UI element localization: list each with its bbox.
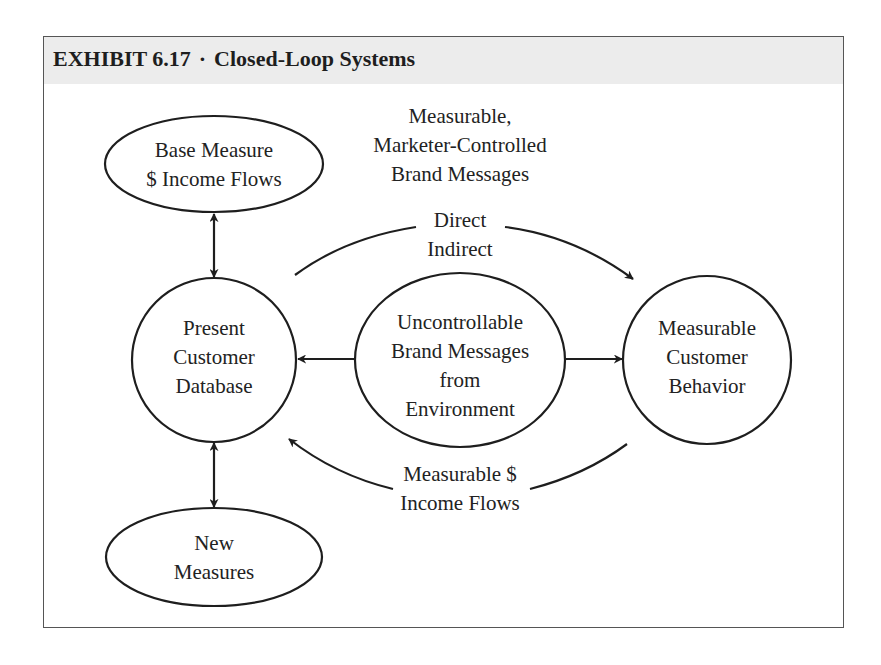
node-base-measure: Base Measure $ Income Flows — [105, 116, 323, 212]
base-measure-line-2: $ Income Flows — [146, 167, 281, 191]
present-db-line-1: Present — [183, 316, 245, 340]
top-arc-label: Direct Indirect — [427, 208, 492, 261]
top-caption-line-2: Marketer-Controlled — [373, 133, 547, 157]
closed-loop-diagram: Base Measure $ Income Flows Present Cust… — [0, 0, 881, 665]
new-measures-line-2: Measures — [174, 560, 254, 584]
node-uncontrollable-brand-messages: Uncontrollable Brand Messages from Envir… — [355, 273, 565, 447]
top-arc-right-arrow — [505, 227, 633, 279]
bottom-arc-left-arrow — [289, 439, 393, 489]
behavior-line-2: Customer — [666, 345, 748, 369]
behavior-line-1: Measurable — [658, 316, 756, 340]
behavior-line-3: Behavior — [669, 374, 746, 398]
top-arc-label-indirect: Indirect — [427, 237, 492, 261]
top-caption-line-1: Measurable, — [408, 104, 511, 128]
top-caption-line-3: Brand Messages — [391, 162, 529, 186]
present-db-line-3: Database — [176, 374, 253, 398]
node-measurable-customer-behavior: Measurable Customer Behavior — [623, 276, 791, 444]
top-caption: Measurable, Marketer-Controlled Brand Me… — [373, 104, 547, 186]
bottom-arc-label-line-2: Income Flows — [400, 491, 520, 515]
bottom-arc-label-line-1: Measurable $ — [403, 462, 517, 486]
uncontrollable-line-3: from — [440, 368, 481, 392]
node-new-measures: New Measures — [106, 508, 322, 606]
top-arc-left — [295, 227, 416, 275]
new-measures-line-1: New — [194, 531, 234, 555]
base-measure-line-1: Base Measure — [155, 138, 273, 162]
node-present-customer-database: Present Customer Database — [132, 278, 296, 442]
present-db-line-2: Customer — [173, 345, 255, 369]
bottom-arc-label: Measurable $ Income Flows — [400, 462, 520, 515]
uncontrollable-line-1: Uncontrollable — [397, 310, 523, 334]
uncontrollable-line-4: Environment — [405, 397, 515, 421]
bottom-arc-right — [530, 444, 627, 489]
top-arc-label-direct: Direct — [434, 208, 487, 232]
uncontrollable-line-2: Brand Messages — [391, 339, 529, 363]
